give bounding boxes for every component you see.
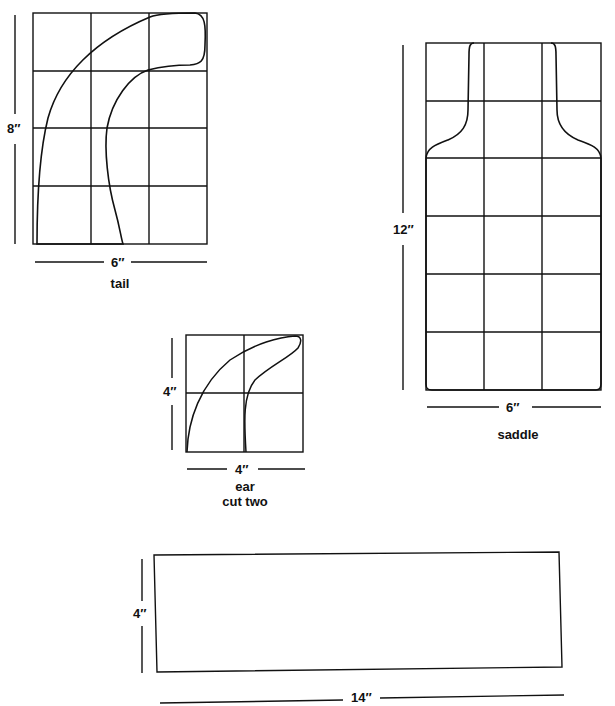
ear-name: ear bbox=[205, 479, 285, 494]
saddle-name: saddle bbox=[488, 427, 548, 442]
strip-pattern bbox=[142, 552, 564, 703]
strip-height-label: 4″ bbox=[133, 606, 146, 621]
saddle-pattern bbox=[403, 43, 601, 407]
tail-width-label: 6″ bbox=[111, 255, 124, 270]
ear-pattern bbox=[172, 335, 305, 469]
ear-note: cut two bbox=[205, 494, 285, 509]
tail-pattern bbox=[15, 13, 207, 262]
ear-height-label: 4″ bbox=[163, 384, 176, 399]
saddle-height-label: 12″ bbox=[393, 222, 414, 237]
ear-width-label: 4″ bbox=[235, 462, 248, 477]
pattern-sheet bbox=[0, 0, 615, 706]
tail-height-label: 8″ bbox=[7, 121, 20, 136]
strip-width-dimension-line bbox=[160, 700, 343, 703]
strip-width-label: 14″ bbox=[351, 690, 372, 705]
saddle-width-label: 6″ bbox=[506, 400, 519, 415]
strip-outline bbox=[154, 552, 562, 672]
tail-name: tail bbox=[95, 276, 145, 291]
